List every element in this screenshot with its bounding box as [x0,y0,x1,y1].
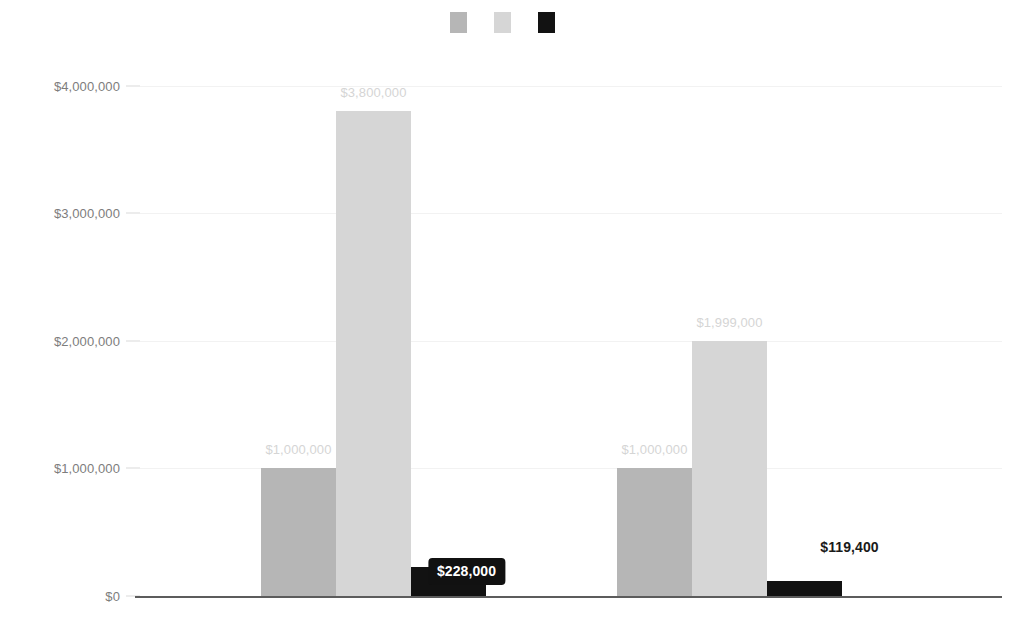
bar-value-label: $228,000 [428,558,505,585]
gridline [140,86,1002,87]
bar-value-label: $3,800,000 [340,85,406,100]
bar-value-label: $119,400 [820,539,878,555]
bar[interactable] [336,111,411,596]
gridline [140,341,1002,342]
y-axis-tick-mark [126,468,140,469]
bar[interactable] [261,468,336,596]
y-axis-tick-mark [126,85,140,86]
bar[interactable] [617,468,692,596]
plot-area: $0$1,000,000$2,000,000$3,000,000$4,000,0… [0,0,1010,635]
y-axis-tick-mark [126,213,140,214]
y-axis-tick-mark [126,340,140,341]
bar-value-label: $1,999,000 [696,315,762,330]
y-axis-tick-label: $1,000,000 [0,461,120,476]
y-axis-tick-label: $0 [0,589,120,604]
x-axis-baseline [135,596,1002,598]
y-axis-tick-label: $4,000,000 [0,78,120,93]
bar-chart: $0$1,000,000$2,000,000$3,000,000$4,000,0… [0,0,1010,635]
y-axis-tick-label: $2,000,000 [0,333,120,348]
bar-value-label: $1,000,000 [621,442,687,457]
y-axis-tick-label: $3,000,000 [0,206,120,221]
bar-value-label: $1,000,000 [265,442,331,457]
bar[interactable] [767,581,842,596]
bar[interactable] [692,341,767,596]
gridline [140,213,1002,214]
